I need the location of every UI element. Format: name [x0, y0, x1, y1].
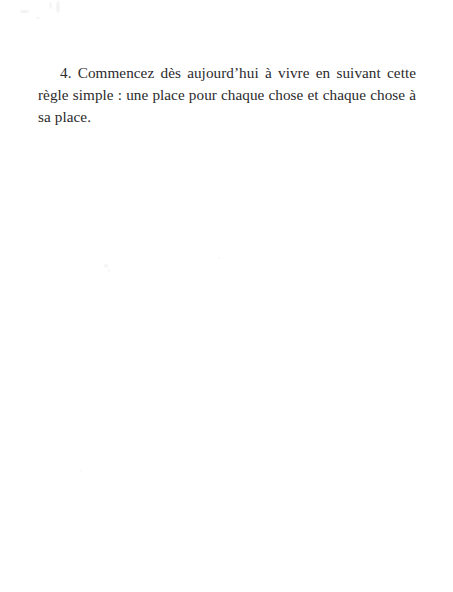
scan-artifact-speckle: [104, 264, 108, 268]
scan-artifact-speckle: [293, 207, 295, 209]
body-text-block: 4. Commencez dès aujourd’hui à vivre en …: [38, 62, 416, 128]
scanned-page: 4. Commencez dès aujourd’hui à vivre en …: [0, 0, 453, 592]
scan-artifact-speckle: [56, 1, 60, 13]
numbered-paragraph-4: 4. Commencez dès aujourd’hui à vivre en …: [38, 62, 416, 128]
scan-artifact-speckle: [218, 257, 220, 259]
scan-artifact-speckle: [49, 2, 52, 9]
scan-artifact-speckle: [80, 470, 82, 472]
scan-artifact-speckle: [36, 17, 40, 19]
scan-artifact-speckle: [108, 269, 110, 272]
scan-artifact-speckle: [20, 10, 29, 13]
